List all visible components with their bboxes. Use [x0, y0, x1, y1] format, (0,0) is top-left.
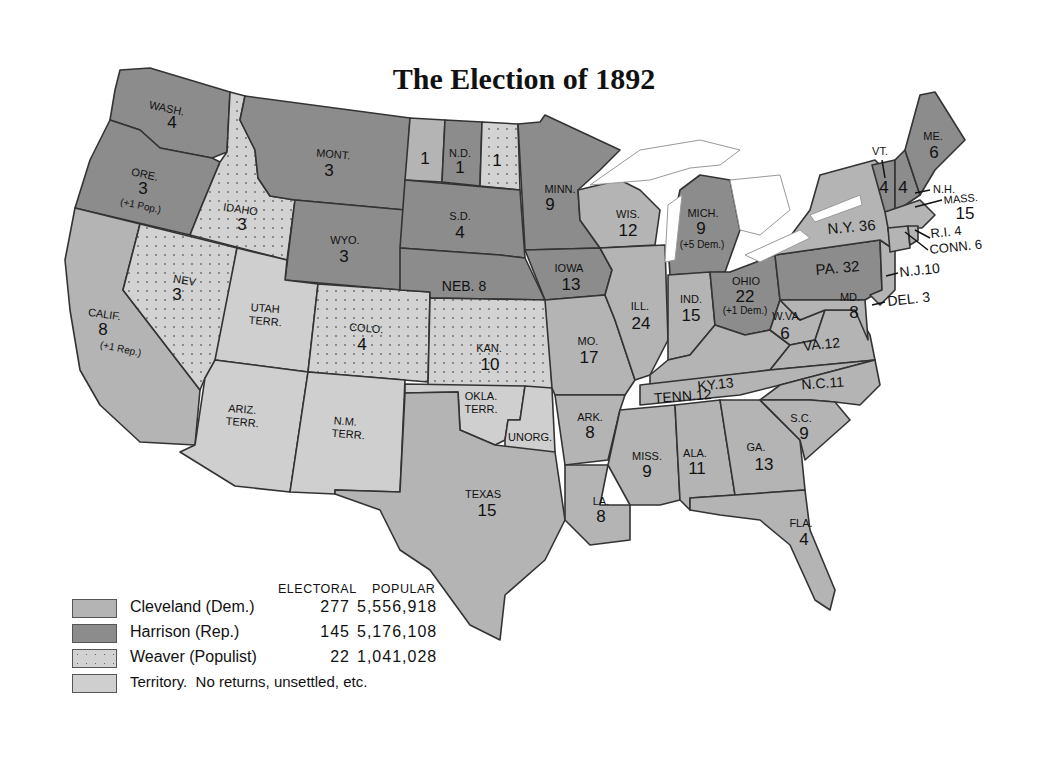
votes-md: 8 [849, 303, 858, 322]
votes-nh: 4 [898, 178, 907, 197]
legend-row-territory: Territory. No returns, unsettled, etc. [72, 672, 492, 694]
votes-miss: 9 [642, 462, 651, 481]
legend-electoral: 277 [290, 598, 350, 616]
label-mich: MICH. [687, 207, 718, 219]
label-nc: N.C.11 [801, 374, 845, 393]
label-sc: S.C. [790, 412, 811, 424]
votes-fla: 4 [799, 530, 808, 549]
votes-mont: 3 [324, 161, 333, 180]
legend-name: Harrison (Rep.) [130, 623, 239, 641]
note-mich: (+5 Dem.) [680, 239, 725, 250]
swatch-republican [72, 624, 117, 643]
label-colo: COLO. [349, 321, 384, 335]
votes-la: 8 [596, 507, 605, 526]
votes-ark: 8 [585, 423, 594, 442]
label-fla: FLA. [789, 517, 812, 529]
legend-row-cleveland: Cleveland (Dem.) 277 5,556,918 [72, 597, 492, 619]
note-ohio: (+1 Dem.) [723, 305, 768, 316]
lake-huron [730, 175, 790, 235]
votes-vt: 4 [879, 178, 888, 197]
label-minn: MINN. [544, 183, 575, 195]
votes-colo: 4 [357, 335, 366, 354]
votes-kan: 10 [481, 355, 500, 374]
votes-ind: 15 [682, 306, 701, 325]
votes-nd-right: 1 [492, 151, 501, 170]
votes-sd: 4 [455, 223, 464, 242]
votes-mich: 9 [696, 219, 705, 238]
votes-minn: 9 [545, 195, 554, 214]
state-fla [690, 490, 835, 610]
swatch-territory [72, 674, 117, 693]
votes-ga: 13 [755, 455, 774, 474]
sub-nm: TERR. [331, 427, 365, 441]
legend-name: Cleveland (Dem.) [130, 598, 254, 616]
legend-popular: 1,041,028 [357, 648, 437, 666]
legend-popular-header: POPULAR [372, 582, 435, 596]
label-ala: ALA. [683, 447, 707, 459]
label-utah: UTAH [250, 301, 280, 315]
legend-electoral: 22 [290, 648, 350, 666]
state-conn [888, 226, 910, 252]
sub-okla: TERR. [465, 403, 498, 415]
label-ark: ARK. [577, 411, 603, 423]
sub-ariz: TERR. [225, 415, 259, 429]
label-unorg: UNORG. [508, 431, 552, 443]
legend-row-weaver: Weaver (Populist) 22 1,041,028 [72, 647, 492, 669]
label-okla: OKLA. [465, 390, 497, 402]
votes-nd-left: 1 [420, 149, 429, 168]
label-vt: VT. [872, 145, 888, 157]
votes-sc: 9 [799, 424, 808, 443]
votes-mass: 15 [956, 204, 975, 223]
votes-ore: 3 [138, 179, 147, 198]
label-la: LA. [593, 495, 610, 507]
label-texas: TEXAS [465, 488, 501, 500]
votes-iowa: 13 [562, 275, 581, 294]
legend-popular: 5,556,918 [357, 598, 437, 616]
label-nj: N.J.10 [899, 260, 941, 280]
legend-row-harrison: Harrison (Rep.) 145 5,176,108 [72, 622, 492, 644]
votes-ill: 24 [632, 314, 651, 333]
legend-name: Territory. No returns, unsettled, etc. [130, 673, 367, 690]
label-iowa: IOWA [555, 262, 585, 274]
sub-utah: TERR. [248, 314, 282, 328]
votes-idaho: 3 [237, 215, 246, 234]
legend-name: Weaver (Populist) [130, 648, 257, 666]
votes-wva: 6 [780, 324, 789, 343]
label-kan: KAN. [476, 342, 502, 354]
label-mo: MO. [578, 335, 599, 347]
swatch-populist [72, 649, 117, 668]
votes-calif: 8 [98, 320, 107, 339]
votes-me: 6 [929, 143, 938, 162]
label-ga: GA. [747, 441, 766, 453]
label-sd: S.D. [449, 210, 470, 222]
label-wyo: WYO. [330, 234, 359, 246]
votes-nd: 1 [455, 158, 464, 177]
label-nm: N.M. [333, 414, 357, 428]
us-election-map: WASH. 4 ORE. 3 (+1 Pop.) CALIF. 8 (+1 Re… [0, 0, 1048, 758]
label-wva: W.VA. [772, 310, 802, 322]
votes-ala: 11 [688, 459, 706, 478]
votes-wash: 4 [167, 113, 176, 132]
votes-wyo: 3 [339, 247, 348, 266]
votes-nev: 3 [172, 285, 181, 304]
votes-mo: 17 [580, 348, 599, 367]
legend-electoral-header: ELECTORAL [278, 582, 357, 596]
legend-popular: 5,176,108 [357, 623, 437, 641]
swatch-democrat [72, 599, 117, 618]
votes-ohio: 22 [736, 287, 755, 306]
label-neb: NEB. 8 [442, 278, 487, 294]
label-md: MD. [840, 291, 860, 303]
label-me: ME. [923, 130, 943, 142]
label-ohio: OHIO [732, 275, 761, 287]
label-del: DEL. 3 [887, 289, 931, 309]
votes-wis: 12 [619, 221, 638, 240]
label-ind: IND. [680, 293, 702, 305]
label-wis: WIS. [616, 208, 640, 220]
legend-electoral: 145 [290, 623, 350, 641]
label-ariz: ARIZ. [228, 402, 257, 416]
label-ill: ILL. [631, 300, 649, 312]
label-miss: MISS. [632, 450, 662, 462]
votes-texas: 15 [478, 501, 497, 520]
